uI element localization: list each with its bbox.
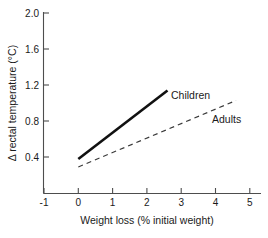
line-chart: 2.0 1.6 1.2 0.8 0.4 -1 0 1 2 3 4 5 Weigh… (0, 0, 268, 238)
y-axis-title: Δ rectal temperature (°C) (6, 45, 18, 161)
x-tick-label-0: 0 (76, 197, 82, 208)
x-tick-label-2: 2 (144, 197, 150, 208)
x-tick-label-3: 3 (178, 197, 184, 208)
y-tick-label-1.2: 1.2 (25, 80, 39, 91)
series-label-adults: Adults (212, 113, 241, 125)
series-label-children: Children (171, 89, 210, 101)
x-tick-label-5: 5 (247, 197, 253, 208)
x-axis-title: Weight loss (% initial weight) (80, 214, 213, 226)
y-tick-label-0.8: 0.8 (25, 116, 39, 127)
x-tick-label--1: -1 (40, 197, 49, 208)
chart-figure: 2.0 1.6 1.2 0.8 0.4 -1 0 1 2 3 4 5 Weigh… (0, 0, 268, 238)
y-tick-label-0.4: 0.4 (25, 152, 39, 163)
series-line-adults (78, 101, 236, 168)
x-tick-label-1: 1 (110, 197, 116, 208)
y-tick-label-1.6: 1.6 (25, 44, 39, 55)
x-tick-label-4: 4 (213, 197, 219, 208)
y-tick-label-2.0: 2.0 (25, 8, 39, 19)
